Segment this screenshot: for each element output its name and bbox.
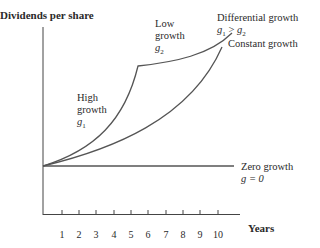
x-tick-label: 2 (77, 229, 82, 240)
y-axis-label: Dividends per share (0, 9, 94, 21)
differential-growth-annotation: Differential growth g1 > g2 (217, 12, 298, 40)
differential-growth-curve (43, 33, 232, 166)
x-tick-label: 4 (112, 229, 117, 240)
annotation-text: High (77, 92, 107, 104)
x-tick-label: 5 (129, 229, 134, 240)
x-axis-label: Years (248, 222, 274, 234)
x-axis-ticks (62, 210, 218, 214)
x-tick-label: 6 (146, 229, 151, 240)
low-growth-annotation: Low growth g2 (155, 18, 185, 58)
x-tick-label: 10 (213, 229, 223, 240)
annotation-text: g = 0 (241, 173, 293, 185)
annotation-text: Differential growth (217, 12, 298, 24)
annotation-operator: > (226, 24, 237, 35)
annotation-text: Zero growth (241, 161, 293, 173)
constant-growth-curve (43, 47, 222, 166)
x-tick-label: 1 (60, 229, 65, 240)
annotation-subscript: 2 (160, 48, 164, 56)
annotation-text: growth (77, 104, 107, 116)
constant-growth-annotation: Constant growth (228, 38, 298, 50)
x-tick-label: 9 (198, 229, 203, 240)
high-growth-annotation: High growth g1 (77, 92, 107, 132)
annotation-text: growth (155, 30, 185, 42)
x-tick-label: 7 (164, 229, 169, 240)
x-tick-label: 8 (181, 229, 186, 240)
annotation-subscript: 2 (242, 30, 246, 38)
annotation-subscript: 1 (82, 122, 86, 130)
annotation-text: Low (155, 18, 185, 30)
x-tick-label: 3 (94, 229, 99, 240)
zero-growth-annotation: Zero growth g = 0 (241, 161, 293, 185)
